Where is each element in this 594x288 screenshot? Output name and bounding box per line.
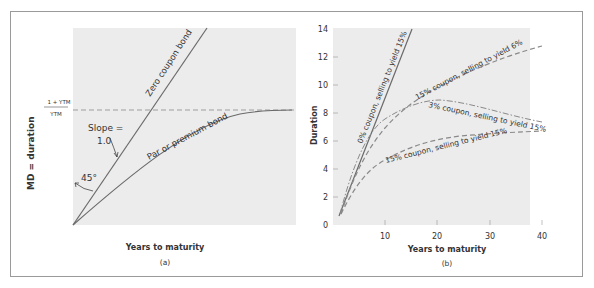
- slope-label-2: 1.0: [97, 136, 112, 146]
- angle-label: 45°: [81, 173, 97, 183]
- y-tick-10: 10: [318, 81, 328, 90]
- panel-a-ylabel: MD = duration: [26, 116, 36, 190]
- panel-b-caption: (b): [442, 259, 453, 268]
- y-tick-0: 0: [323, 221, 328, 230]
- panel-b: 0 2 4 6 8 10 12 14 10 20 30 40 Duration …: [310, 25, 547, 268]
- ref-numerator: 1 + YTM: [47, 99, 70, 105]
- y-tick-8: 8: [323, 109, 328, 118]
- x-tick-10: 10: [380, 232, 390, 241]
- x-tick-20: 20: [432, 232, 442, 241]
- y-tick-6: 6: [323, 137, 328, 146]
- slope-label-1: Slope =: [88, 123, 123, 133]
- figure-svg: MD = duration 1 + YTM YTM Zero coupon bo…: [0, 0, 594, 288]
- panel-a-xlabel: Years to maturity: [125, 243, 205, 252]
- x-tick-40: 40: [537, 232, 547, 241]
- ref-denominator: YTM: [49, 111, 62, 117]
- y-tick-14: 14: [318, 25, 328, 34]
- y-tick-2: 2: [323, 193, 328, 202]
- x-tick-30: 30: [485, 232, 495, 241]
- y-tick-4: 4: [323, 165, 328, 174]
- panel-a-caption: (a): [160, 258, 171, 267]
- panel-b-ylabel: Duration: [310, 105, 319, 145]
- panel-a: MD = duration 1 + YTM YTM Zero coupon bo…: [26, 28, 296, 267]
- y-tick-12: 12: [318, 53, 328, 62]
- panel-b-xlabel: Years to maturity: [407, 245, 487, 254]
